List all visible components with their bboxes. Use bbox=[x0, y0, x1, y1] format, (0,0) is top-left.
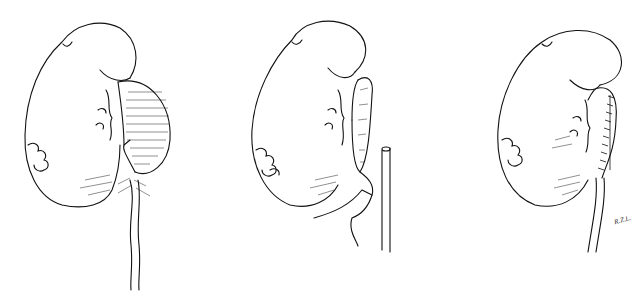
kidney-illustration-1 bbox=[0, 0, 210, 301]
kidney-illustration-3 bbox=[430, 0, 641, 301]
panel-3-kidney-repaired bbox=[430, 0, 641, 301]
panel-1-kidney-dilated-pelvis bbox=[0, 0, 210, 301]
panel-2-kidney-opened-pelvis bbox=[210, 0, 430, 301]
kidney-illustration-2 bbox=[210, 0, 430, 301]
